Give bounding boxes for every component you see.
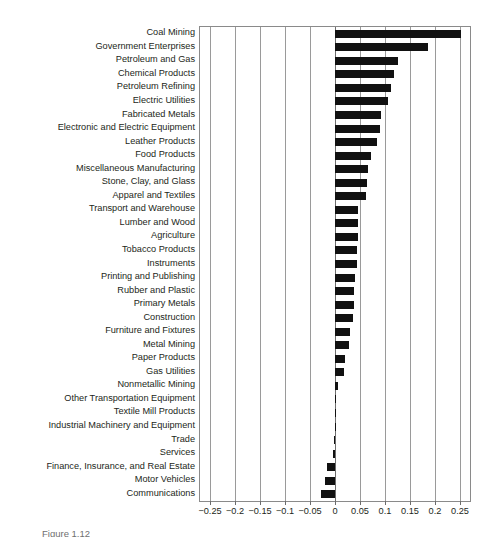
category-label: Rubber and Plastic — [0, 285, 195, 295]
bar-row — [200, 338, 470, 352]
bar — [335, 70, 394, 78]
bar — [335, 57, 398, 65]
bar — [335, 152, 371, 160]
bar-row — [200, 68, 470, 82]
x-tick-mark — [385, 501, 386, 505]
x-tick-label: −0.2 — [226, 506, 244, 517]
bar — [335, 423, 336, 431]
bar — [335, 368, 344, 376]
category-label: Paper Products — [0, 352, 195, 362]
bar-row — [200, 135, 470, 149]
bar-row — [200, 284, 470, 298]
bar — [335, 328, 350, 336]
bar-row — [200, 460, 470, 474]
category-label: Electric Utilities — [0, 95, 195, 105]
category-label: Miscellaneous Manufacturing — [0, 163, 195, 173]
category-label: Primary Metals — [0, 298, 195, 308]
bar-row — [200, 325, 470, 339]
bar-row — [200, 162, 470, 176]
category-label: Gas Utilities — [0, 366, 195, 376]
bar-row — [200, 217, 470, 231]
x-tick-label: −0.15 — [248, 506, 271, 517]
bar — [335, 301, 354, 309]
bar — [333, 450, 335, 458]
category-label: Furniture and Fixtures — [0, 325, 195, 335]
category-label: Metal Mining — [0, 339, 195, 349]
bar — [335, 314, 353, 322]
bar-row — [200, 54, 470, 68]
x-tick-label: 0.15 — [401, 506, 419, 517]
bar-row — [200, 447, 470, 461]
plot-area — [199, 26, 471, 502]
bar — [335, 30, 461, 38]
category-label: Construction — [0, 312, 195, 322]
bar-row — [200, 27, 470, 41]
bar — [325, 477, 336, 485]
bar — [335, 341, 349, 349]
bar — [335, 192, 366, 200]
bar-row — [200, 474, 470, 488]
x-axis: −0.25−0.2−0.15−0.1−0.0500.050.10.150.20.… — [199, 501, 471, 525]
category-label: Food Products — [0, 149, 195, 159]
category-axis-labels: Coal MiningGovernment EnterprisesPetrole… — [0, 26, 195, 502]
x-tick-label: 0 — [332, 506, 337, 517]
x-tick-label: 0.25 — [451, 506, 469, 517]
category-label: Other Transportation Equipment — [0, 393, 195, 403]
bar — [335, 125, 380, 133]
bar — [335, 287, 354, 295]
x-tick-label: 0.2 — [429, 506, 442, 517]
bar — [335, 260, 357, 268]
bar — [335, 219, 358, 227]
bar — [335, 206, 358, 214]
bar — [321, 490, 336, 498]
category-label: Leather Products — [0, 136, 195, 146]
bar-row — [200, 122, 470, 136]
category-label: Motor Vehicles — [0, 474, 195, 484]
bar — [335, 111, 381, 119]
x-tick-label: −0.1 — [276, 506, 294, 517]
bar — [335, 138, 377, 146]
bar — [335, 355, 345, 363]
figure-caption: Figure 1.12 — [42, 528, 90, 537]
x-tick-mark — [210, 501, 211, 505]
bar — [335, 179, 367, 187]
x-tick-mark — [435, 501, 436, 505]
category-label: Fabricated Metals — [0, 109, 195, 119]
bar — [335, 43, 428, 51]
category-label: Stone, Clay, and Glass — [0, 176, 195, 186]
category-label: Electronic and Electric Equipment — [0, 122, 195, 132]
x-tick-mark — [460, 501, 461, 505]
bar-row — [200, 244, 470, 258]
bar-row — [200, 41, 470, 55]
bar-row — [200, 406, 470, 420]
bar — [334, 436, 335, 444]
bar-row — [200, 190, 470, 204]
bar-row — [200, 366, 470, 380]
bar — [335, 409, 336, 417]
bar — [335, 97, 388, 105]
bar — [335, 395, 336, 403]
bar-row — [200, 487, 470, 501]
category-label: Tobacco Products — [0, 244, 195, 254]
bar — [335, 233, 358, 241]
category-label: Lumber and Wood — [0, 217, 195, 227]
bar-row — [200, 257, 470, 271]
x-tick-mark — [260, 501, 261, 505]
category-label: Government Enterprises — [0, 41, 195, 51]
x-tick-mark — [310, 501, 311, 505]
category-label: Services — [0, 447, 195, 457]
bar — [335, 274, 355, 282]
category-label: Agriculture — [0, 230, 195, 240]
category-label: Industrial Machinery and Equipment — [0, 420, 195, 430]
category-label: Apparel and Textiles — [0, 190, 195, 200]
x-tick-label: −0.05 — [298, 506, 321, 517]
bar — [335, 246, 357, 254]
category-label: Transport and Warehouse — [0, 203, 195, 213]
bar-row — [200, 393, 470, 407]
bar-series — [200, 27, 470, 501]
bar-row — [200, 81, 470, 95]
x-tick-mark — [235, 501, 236, 505]
bar-row — [200, 298, 470, 312]
category-label: Printing and Publishing — [0, 271, 195, 281]
bar-row — [200, 352, 470, 366]
